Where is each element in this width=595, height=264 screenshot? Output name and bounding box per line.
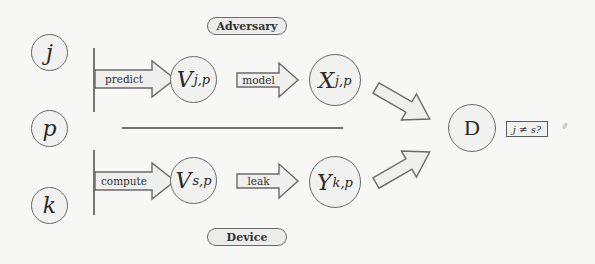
node-v-jp-sub: j,p xyxy=(194,72,211,87)
distinguisher-label: D xyxy=(464,115,480,141)
node-v-sp: Vs,p xyxy=(170,157,217,204)
node-v-sp-base: V xyxy=(175,168,191,193)
input-node-k-label: k xyxy=(43,193,56,218)
decision-question-box: j ≠ s? xyxy=(506,121,548,137)
input-node-p-label: p xyxy=(42,116,56,141)
input-node-j-label: j xyxy=(46,40,53,65)
predict-label: predict xyxy=(96,71,152,87)
node-y-kp-sub: k,p xyxy=(333,175,353,190)
adversary-label: Adversary xyxy=(207,17,287,35)
node-y-kp: Yk,p xyxy=(309,156,361,208)
node-v-jp: Vj,p xyxy=(170,56,217,103)
compute-label: compute xyxy=(96,173,152,189)
node-y-kp-base: Y xyxy=(317,170,332,195)
input-node-p: p xyxy=(31,110,68,147)
model-label: model xyxy=(238,73,279,87)
node-x-jp-base: X xyxy=(318,68,334,93)
node-v-sp-sub: s,p xyxy=(192,173,211,188)
input-node-j: j xyxy=(31,34,68,71)
y-to-d-arrow xyxy=(369,139,438,196)
x-to-d-arrow xyxy=(369,75,438,132)
device-label: Device xyxy=(207,228,287,246)
leak-label: leak xyxy=(238,174,279,188)
distinguisher-node: D xyxy=(448,104,496,152)
node-x-jp-sub: j,p xyxy=(335,73,352,88)
diagram-canvas: Adversary Device j p k predict compute m… xyxy=(0,0,595,264)
input-node-k: k xyxy=(31,187,68,224)
node-x-jp: Xj,p xyxy=(309,54,361,106)
stray-mark xyxy=(562,122,569,130)
node-v-jp-base: V xyxy=(177,67,193,92)
